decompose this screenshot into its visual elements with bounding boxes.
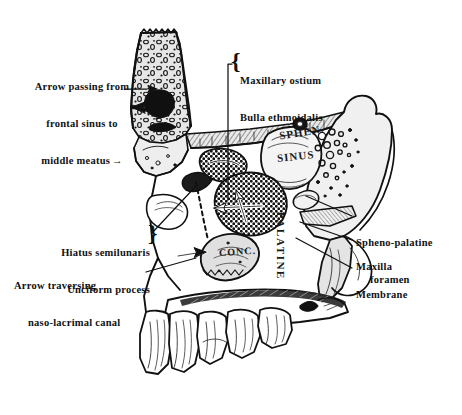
callout-line: Membrane [356,289,452,301]
callout-brace-open: { [231,49,241,73]
callout-naso-lacrimal: Arrow traversing naso-lacrimal canal [14,255,154,342]
callout-frontal-sinus-arrow: Arrow passing from frontal sinus to midd… [18,56,146,180]
callout-brace-close: } [148,221,158,245]
callout-line: Arrow traversing [14,280,154,292]
callout-line: Bulla ethmoidalis [240,112,390,124]
callout-line: Arrow passing from [18,81,146,93]
callout-line: middle meatus→ [18,155,146,167]
arrow-glyph: → [112,155,123,166]
callout-membrane: Membrane [356,264,452,314]
callout-line: frontal sinus to [18,118,146,130]
callout-line: naso-lacrimal canal [14,317,154,329]
callout-line: Maxillary ostium [240,75,390,87]
figure-label-palatine: PALATINE [275,212,287,280]
teeth-row [140,308,292,374]
